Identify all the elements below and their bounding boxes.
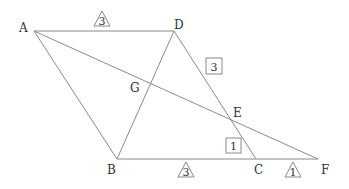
segment-DC [174,31,256,159]
point-label-D: D [174,18,184,32]
point-label-F: F [321,163,329,177]
point-label-A: A [18,21,28,35]
ratio-value: 3 [183,166,190,179]
ratio-triangle-AD: 3 [94,11,110,28]
point-label-E: E [233,106,242,120]
point-label-B: B [107,163,116,177]
ratio-value: 3 [211,61,218,74]
ratio-value: 3 [99,15,106,28]
geometry-diagram: A D G E B C F 3 3 1 3 1 [0,0,349,189]
ratio-box-EC: 1 [226,138,241,153]
ratio-value: 1 [230,140,237,153]
point-label-G: G [130,81,140,95]
segment-AF [34,31,318,159]
segment-BD [117,31,174,159]
ratio-triangle-BC: 3 [178,162,194,179]
point-label-C: C [254,163,263,177]
ratio-triangle-CF: 1 [285,162,301,179]
ratio-box-DE: 3 [206,58,222,74]
diagram-svg: A D G E B C F 3 3 1 3 1 [0,0,349,189]
ratio-value: 1 [290,166,297,179]
